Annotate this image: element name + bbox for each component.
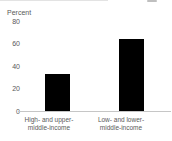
x-category-label-line: middle-income	[89, 124, 153, 132]
bar-chart: Percent 020406080 High- and upper-middle…	[0, 0, 172, 141]
x-category-label-line: Low- and lower-	[89, 116, 153, 124]
x-category-label-line: High- and upper-	[17, 116, 81, 124]
y-tick-label: 80	[4, 17, 20, 26]
x-axis-line	[18, 111, 171, 112]
x-category-label: Low- and lower-middle-income	[89, 116, 153, 132]
y-tick-label: 60	[4, 39, 20, 48]
cropped-title-artifact-line	[0, 0, 108, 1]
y-tick-label: 20	[4, 84, 20, 93]
y-tick-label: 40	[4, 62, 20, 71]
bar	[119, 39, 144, 111]
x-category-label-line: middle-income	[17, 124, 81, 132]
x-category-label: High- and upper-middle-income	[17, 116, 81, 132]
bar	[45, 74, 70, 111]
cropped-title-artifact-smudge	[147, 0, 157, 2]
